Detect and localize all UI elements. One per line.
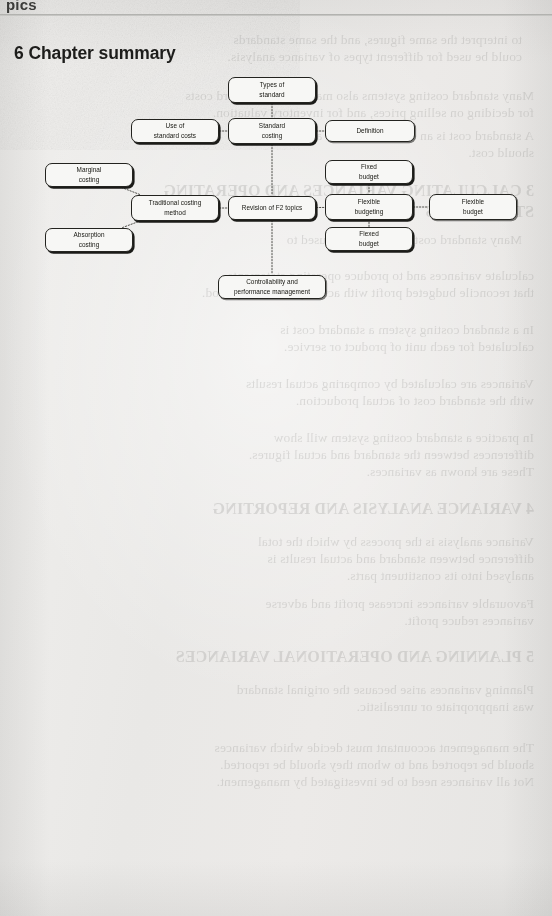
- diagram-connector: [122, 188, 140, 195]
- diagram-node-label: Flexiblebudget: [462, 197, 484, 216]
- diagram-node-label: Fixedbudget: [359, 162, 379, 181]
- diagram-node-label: Marginalcosting: [77, 165, 102, 184]
- diagram-node-label: Standardcosting: [259, 121, 285, 140]
- diagram-node-label: Use ofstandard costs: [154, 121, 196, 140]
- diagram-node-types-of-standard: Types ofstandard: [228, 77, 316, 103]
- diagram-node-absorption-costing: Absorptioncosting: [45, 228, 133, 252]
- diagram-node-label: Revision of F2 topics: [242, 203, 302, 213]
- diagram-node-standard-costing: Standardcosting: [228, 118, 316, 144]
- diagram-node-label: Flexedbudget: [359, 229, 379, 248]
- diagram-node-use-of-standard-costs: Use ofstandard costs: [131, 119, 219, 143]
- diagram-node-controllability: Controllability andperformance managemen…: [218, 275, 326, 299]
- diagram-node-traditional-costing: Traditional costingmethod: [131, 195, 219, 221]
- diagram-node-revision-f2-topics: Revision of F2 topics: [228, 196, 316, 220]
- diagram-node-flexible-budgeting: Flexiblebudgeting: [325, 194, 413, 220]
- diagram-node-label: Definition: [356, 126, 383, 136]
- diagram-connector: [123, 222, 139, 228]
- diagram-node-label: Controllability andperformance managemen…: [234, 277, 310, 296]
- diagram-node-marginal-costing: Marginalcosting: [45, 163, 133, 187]
- diagram-node-fixed-budget: Fixedbudget: [325, 160, 413, 184]
- diagram-node-label: Traditional costingmethod: [149, 198, 202, 217]
- diagram-node-definition: Definition: [325, 120, 415, 142]
- diagram-node-label: Types ofstandard: [259, 80, 284, 99]
- diagram-node-label: Absorptioncosting: [73, 230, 104, 249]
- diagram-node-flexed-budget: Flexedbudget: [325, 227, 413, 251]
- diagram-node-label: Flexiblebudgeting: [355, 197, 384, 216]
- chapter-summary-diagram: Types ofstandardUse ofstandard costsStan…: [0, 0, 552, 330]
- diagram-node-flexible-budget: Flexiblebudget: [429, 194, 517, 220]
